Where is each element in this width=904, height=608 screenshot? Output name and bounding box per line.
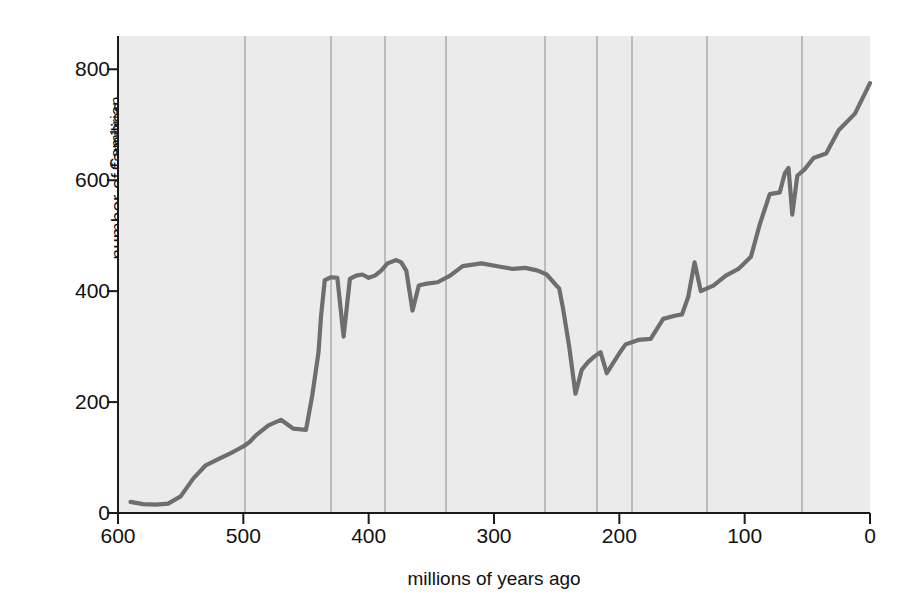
plot-area-background	[118, 36, 870, 513]
chart-figure: number of families millions of years ago…	[0, 0, 904, 608]
plot-canvas	[0, 0, 904, 608]
